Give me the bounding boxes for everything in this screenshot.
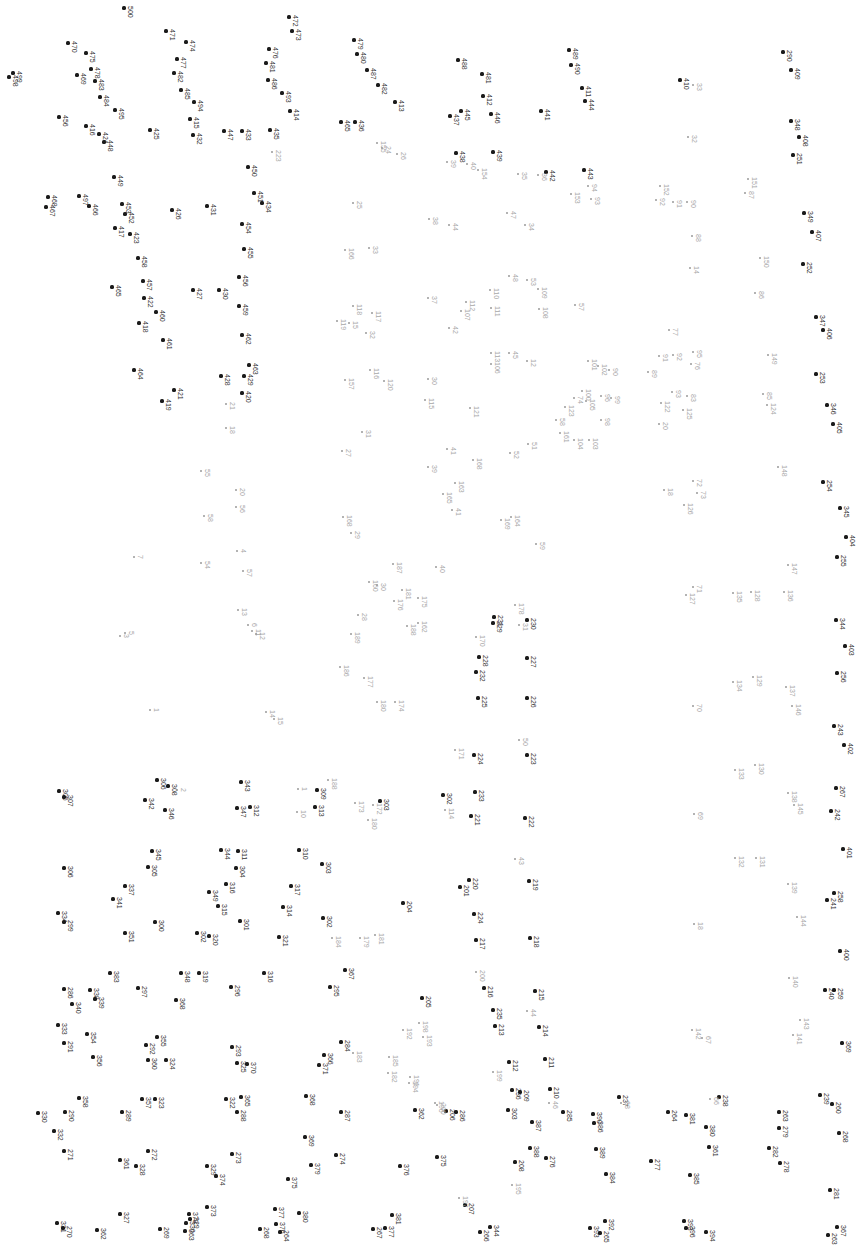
dot-marker-icon	[510, 1088, 513, 1091]
dot-number-label: 98	[604, 418, 611, 426]
dot-marker-icon	[837, 1131, 840, 1134]
dot-number-label: 207	[468, 1203, 475, 1215]
dot-marker-icon	[225, 427, 228, 430]
dot-number-label: 448	[107, 140, 114, 152]
dot-marker-icon	[44, 205, 47, 208]
dot-marker-icon	[122, 6, 125, 9]
dot-number-label: 476	[272, 47, 279, 59]
dot-number-label: 204	[406, 901, 413, 913]
dot-marker-icon	[236, 849, 239, 852]
dot-marker-icon	[288, 109, 291, 112]
dot-marker-icon	[322, 1053, 325, 1056]
dot-marker-icon	[175, 57, 178, 60]
dot-marker-icon	[172, 71, 175, 74]
dot-marker-icon	[137, 321, 140, 324]
dot-number-label: 459	[242, 304, 249, 316]
dot-marker-icon	[826, 1233, 829, 1236]
dot-marker-icon	[144, 1043, 147, 1046]
dot-marker-icon	[352, 38, 355, 41]
dot-marker-icon	[200, 562, 203, 565]
dot-number-label: 488	[461, 58, 468, 70]
dot-marker-icon	[46, 195, 49, 198]
dot-marker-icon	[832, 891, 835, 894]
dot-number-label: 482	[381, 83, 388, 95]
dot-marker-icon	[594, 1147, 597, 1150]
dot-marker-icon	[821, 328, 824, 331]
dot-number-label: 157	[348, 378, 355, 390]
dot-number-label: 279	[782, 1126, 789, 1138]
dot-number-label: 355	[160, 1035, 167, 1047]
dot-marker-icon	[246, 165, 249, 168]
dot-number-label: 315	[221, 904, 228, 916]
dot-marker-icon	[123, 931, 126, 934]
dot-marker-icon	[478, 1230, 481, 1233]
dot-marker-icon	[239, 1095, 242, 1098]
dot-marker-icon	[835, 555, 838, 558]
dot-number-label: 255	[840, 555, 847, 567]
dot-number-label: 47	[510, 211, 517, 219]
dot-marker-icon	[825, 403, 828, 406]
dot-number-label: 299	[67, 920, 74, 932]
dot-number-label: 92	[676, 353, 683, 361]
dot-number-label: 109	[541, 287, 548, 299]
dot-marker-icon	[460, 310, 463, 313]
dot-number-label: 266	[483, 1230, 490, 1242]
dot-number-label: 406	[826, 328, 833, 340]
dot-marker-icon	[709, 1098, 712, 1101]
dot-number-label: 200	[479, 970, 486, 982]
dot-marker-icon	[140, 1097, 143, 1100]
dot-marker-icon	[235, 1110, 238, 1113]
dot-marker-icon	[526, 360, 529, 363]
dot-marker-icon	[242, 374, 245, 377]
dot-number-label: 232	[479, 670, 486, 682]
dot-number-label: 263	[831, 1233, 838, 1245]
dot-number-label: 482	[177, 71, 184, 83]
dot-marker-icon	[75, 73, 78, 76]
dot-number-label: 303	[383, 799, 390, 811]
dot-marker-icon	[685, 594, 688, 597]
dot-marker-icon	[365, 68, 368, 71]
dot-number-label: 295	[333, 985, 340, 997]
dot-number-label: 71	[696, 585, 703, 593]
dot-number-label: 296	[234, 985, 241, 997]
dot-marker-icon	[755, 857, 758, 860]
dot-number-label: 293	[235, 1045, 242, 1057]
dot-marker-icon	[580, 86, 583, 89]
dot-number-label: 429	[247, 374, 254, 386]
dot-number-label: 33	[372, 246, 379, 254]
dot-number-label: 348	[184, 971, 191, 983]
dot-marker-icon	[371, 312, 374, 315]
dot-number-label: 41	[455, 508, 462, 516]
dot-marker-icon	[814, 372, 817, 375]
dot-marker-icon	[693, 813, 696, 816]
dot-marker-icon	[179, 88, 182, 91]
dot-marker-icon	[188, 117, 191, 120]
dot-number-label: 281	[833, 1188, 840, 1200]
dot-marker-icon	[489, 112, 492, 115]
dot-number-label: 374	[219, 1174, 226, 1186]
dot-number-label: 103	[592, 438, 599, 450]
dot-marker-icon	[192, 100, 195, 103]
dot-marker-icon	[303, 1135, 306, 1138]
dot-number-label: 214	[542, 1025, 549, 1037]
dot-marker-icon	[352, 305, 355, 308]
dot-marker-icon	[355, 52, 358, 55]
dot-marker-icon	[481, 94, 484, 97]
dot-marker-icon	[120, 1110, 123, 1113]
dot-number-label: 126	[687, 503, 694, 515]
dot-number-label: 264	[671, 1110, 678, 1122]
dot-number-label: 225	[481, 696, 488, 708]
dot-marker-icon	[112, 175, 115, 178]
dot-number-label: 381	[395, 1213, 402, 1225]
dot-marker-icon	[341, 450, 344, 453]
dot-number-label: 15	[277, 717, 284, 725]
dot-number-label: 163	[458, 481, 465, 493]
dot-marker-icon	[777, 1126, 780, 1129]
dot-marker-icon	[537, 1025, 540, 1028]
dot-marker-icon	[317, 1063, 320, 1066]
dot-number-label: 461	[166, 338, 173, 350]
dot-number-label: 185	[392, 1055, 399, 1067]
dot-marker-icon	[348, 322, 351, 325]
dot-marker-icon	[247, 363, 250, 366]
dot-number-label: 186	[343, 665, 350, 677]
